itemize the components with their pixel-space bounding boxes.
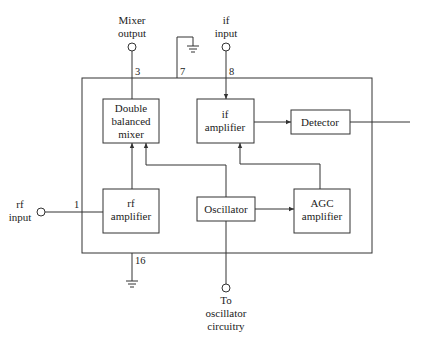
svg-text:amplifier: amplifier — [111, 210, 152, 222]
svg-text:Detector: Detector — [301, 116, 339, 128]
pin-7-label: 7 — [180, 66, 185, 77]
oscillator-block: Oscillator — [197, 197, 255, 221]
mixer-output-terminal: Mixer output 3 — [118, 14, 146, 99]
svg-text:rf: rf — [127, 197, 135, 209]
mixer-output-label-2: output — [118, 27, 146, 39]
detector-block: Detector — [291, 110, 350, 134]
block-diagram: Mixer output 3 7 if input 8 Double balan… — [0, 0, 422, 342]
agc-amplifier-block: AGC amplifier — [294, 189, 350, 233]
svg-text:amplifier: amplifier — [205, 121, 246, 133]
terminal-circle-icon — [222, 43, 230, 51]
rf-input-label-1: rf — [16, 198, 24, 210]
svg-text:mixer: mixer — [118, 128, 144, 140]
agc-to-if-wire — [240, 143, 320, 189]
mixer-output-label-1: Mixer — [119, 14, 146, 26]
terminal-circle-icon — [37, 208, 45, 216]
pin-16-label: 16 — [135, 255, 146, 266]
double-balanced-mixer-block: Double balanced mixer — [103, 99, 159, 143]
svg-text:Double: Double — [115, 102, 148, 114]
osc-circuitry-terminal: To oscillator circuitry — [206, 221, 247, 332]
pin-7-ground: 7 — [177, 37, 199, 78]
svg-text:if: if — [222, 108, 229, 120]
rf-amplifier-block: rf amplifier — [103, 189, 159, 233]
osc-circuitry-label-2: oscillator — [206, 307, 247, 319]
terminal-circle-icon — [222, 284, 230, 292]
pin-8-label: 8 — [229, 66, 234, 77]
if-input-terminal: if input 8 — [215, 14, 238, 99]
svg-text:balanced: balanced — [111, 115, 151, 127]
terminal-circle-icon — [128, 43, 136, 51]
pin-3-label: 3 — [135, 66, 140, 77]
svg-text:Oscillator: Oscillator — [204, 203, 248, 215]
if-amplifier-block: if amplifier — [197, 99, 254, 143]
osc-circuitry-label-3: circuitry — [207, 320, 245, 332]
svg-text:amplifier: amplifier — [302, 210, 343, 222]
pin-16-ground: 16 — [126, 253, 146, 287]
rf-input-label-2: input — [9, 211, 32, 223]
if-input-label-2: input — [215, 27, 238, 39]
osc-circuitry-label-1: To — [220, 294, 232, 306]
pin-1-label: 1 — [74, 199, 79, 210]
rf-input-terminal: rf input 1 — [9, 198, 103, 223]
if-input-label-1: if — [223, 14, 230, 26]
svg-text:AGC: AGC — [310, 197, 333, 209]
